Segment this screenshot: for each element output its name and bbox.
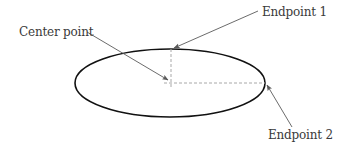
center-point-arrow: [87, 32, 168, 80]
ellipse-diagram-canvas: [0, 0, 343, 148]
endpoint-2-arrow: [267, 85, 292, 127]
center-point-label: Center point: [19, 26, 93, 38]
endpoint-2-label: Endpoint 2: [268, 129, 333, 141]
endpoint-1-label: Endpoint 1: [262, 6, 327, 18]
endpoint-1-arrow: [174, 11, 258, 48]
ellipse-diagram: Center point Endpoint 1 Endpoint 2: [0, 0, 343, 148]
